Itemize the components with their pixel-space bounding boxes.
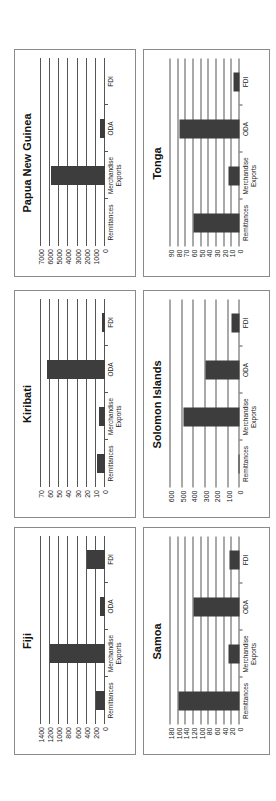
rotated-chart: Kiribati 010203040506070 RemittancesMerc…: [15, 291, 135, 517]
x-label-line: ODA: [241, 105, 249, 152]
x-label-line: Remittances: [241, 677, 249, 724]
x-category-label: Remittances: [107, 440, 131, 487]
x-label-line: Merchandise: [107, 393, 115, 440]
x-category-label: FDI: [241, 536, 265, 583]
gridline: [77, 536, 78, 724]
gridline: [169, 299, 170, 487]
bar-chart: Solomon Islands 0100200300400500600 Remi…: [144, 291, 269, 517]
bar-chart: Tonga 0102030405060708090 RemittancesMer…: [144, 50, 269, 276]
x-label-line: FDI: [107, 536, 115, 583]
bar-oda: [100, 119, 105, 138]
bar-remittances: [238, 454, 239, 473]
rotated-chart: Fiji 0200400600800100012001400 Remittanc…: [15, 528, 135, 754]
bar-oda: [100, 597, 105, 616]
bar-fdi: [231, 313, 239, 332]
y-tick-label: 500: [179, 490, 186, 502]
y-tick-label: 1000: [56, 727, 63, 743]
y-tick-label: 20: [228, 727, 235, 735]
x-label-line: Remittances: [107, 199, 115, 246]
chart-title: Samoa: [150, 528, 162, 754]
y-tick-label: 0: [102, 249, 109, 253]
chart-panel-kiribati: Kiribati 010203040506070 RemittancesMerc…: [14, 290, 136, 518]
y-tick-label: 1200: [47, 727, 54, 743]
x-category-label: ODA: [107, 105, 131, 152]
bar-merchandise-exports: [183, 407, 239, 426]
x-category-label: Remittances: [241, 677, 265, 724]
y-tick-label: 60: [47, 490, 54, 498]
y-tick-label: 5000: [56, 249, 63, 265]
x-label-line: ODA: [241, 346, 249, 393]
bar-fdi: [229, 550, 239, 569]
x-category-label: MerchandiseExports: [241, 152, 265, 199]
bar-remittances: [96, 691, 105, 710]
y-tick-label: 70: [38, 490, 45, 498]
y-tick-label: 40: [221, 727, 228, 735]
x-category-label: FDI: [107, 299, 131, 346]
y-tick-label: 140: [182, 727, 189, 739]
x-category-label: Remittances: [241, 440, 265, 487]
y-tick-label: 600: [167, 490, 174, 502]
chart-title: Papua New Guinea: [21, 50, 33, 276]
bar-oda: [205, 360, 240, 379]
x-category-label: ODA: [107, 346, 131, 393]
y-tick-label: 80: [175, 249, 182, 257]
x-category-label: Remittances: [107, 677, 131, 724]
gridline: [169, 536, 170, 724]
y-tick-label: 400: [190, 490, 197, 502]
gridline: [40, 536, 41, 724]
y-tick-label: 2000: [84, 249, 91, 265]
x-label-line: Merchandise: [107, 630, 115, 677]
x-label-line: Remittances: [241, 199, 249, 246]
x-label-line: Remittances: [241, 440, 249, 487]
gridline: [58, 299, 59, 487]
bar-chart: Papua New Guinea 01000200030004000500060…: [15, 50, 135, 276]
gridline: [49, 58, 50, 246]
x-label-line: ODA: [107, 583, 115, 630]
plot-area: 01000200030004000500060007000: [41, 58, 105, 246]
y-tick-label: 6000: [47, 249, 54, 265]
chart-panel-fiji: Fiji 0200400600800100012001400 Remittanc…: [14, 527, 136, 755]
gridline: [204, 299, 205, 487]
bar-fdi: [102, 313, 105, 332]
x-label-line: Remittances: [107, 440, 115, 487]
y-tick-label: 120: [190, 727, 197, 739]
bar-merchandise-exports: [50, 644, 105, 663]
x-category-label: MerchandiseExports: [107, 393, 131, 440]
y-tick-label: 0: [236, 490, 243, 494]
y-tick-label: 4000: [65, 249, 72, 265]
gridline: [77, 58, 78, 246]
gridline: [77, 299, 78, 487]
y-tick-label: 180: [167, 727, 174, 739]
gridline: [67, 536, 68, 724]
gridline: [95, 299, 96, 487]
y-tick-label: 50: [198, 249, 205, 257]
y-tick-label: 30: [75, 490, 82, 498]
y-tick-label: 0: [102, 490, 109, 494]
x-category-label: FDI: [241, 58, 265, 105]
x-category-label: FDI: [241, 299, 265, 346]
y-tick-label: 1400: [38, 727, 45, 743]
x-axis: [104, 58, 105, 246]
rotated-chart: Papua New Guinea 01000200030004000500060…: [15, 50, 135, 276]
x-label-line: Exports: [249, 630, 257, 677]
x-category-label: MerchandiseExports: [107, 630, 131, 677]
plot-area: 0200400600800100012001400: [41, 536, 105, 724]
y-tick-label: 70: [182, 249, 189, 257]
chart-title: Tonga: [150, 50, 162, 276]
gridline: [67, 58, 68, 246]
bar-remittances: [193, 213, 239, 232]
bar-merchandise-exports: [228, 644, 240, 663]
x-axis-labels: RemittancesMerchandiseExportsODAFDI: [107, 299, 131, 487]
y-tick-label: 300: [202, 490, 209, 502]
plot-area: 0102030405060708090: [170, 58, 239, 246]
bar-remittances: [97, 454, 105, 473]
y-tick-label: 160: [175, 727, 182, 739]
x-category-label: MerchandiseExports: [241, 393, 265, 440]
x-label-line: ODA: [241, 583, 249, 630]
x-label-line: ODA: [107, 105, 115, 152]
y-tick-label: 100: [198, 727, 205, 739]
y-tick-label: 0: [102, 727, 109, 731]
x-label-line: Merchandise: [241, 630, 249, 677]
bar-fdi: [233, 72, 239, 91]
y-tick-label: 30: [213, 249, 220, 257]
